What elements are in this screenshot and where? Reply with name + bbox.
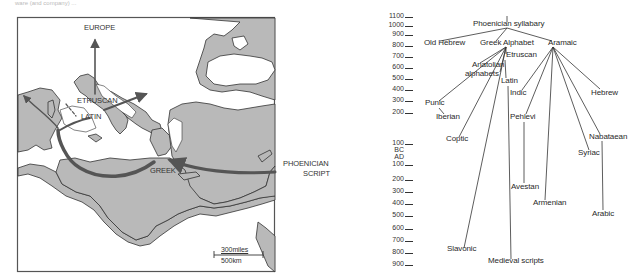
tick-ad-100: 100 [378,160,404,167]
node-latin: Latin [501,77,518,85]
tick-bc-900: 900 [378,30,404,37]
tick-ad-500: 500 [378,211,404,218]
node-greek-alphabet: Greek Alphabet [480,39,534,47]
node-syriac: Syriac [578,149,600,157]
node-armenian: Armenian [533,199,566,207]
node-anatolian-1: Anatolian [472,61,504,69]
tick-ad-700: 700 [378,236,404,243]
node-aramaic: Aramaic [548,39,577,47]
tick-mark [405,57,413,58]
node-coptic: Coptic [446,135,468,143]
tick-mark [405,46,413,47]
tick-ad-900: 900 [378,260,404,267]
node-punic: Punic [425,99,445,107]
tick-mark [405,265,413,266]
node-etruscan: Etruscan [506,51,537,59]
node-arabic: Arabic [592,210,614,218]
map-label-phoenician: PHOENICIAN [283,160,329,168]
node-phoenician-syllabary: Phoenician syllabary [473,20,544,28]
tick-mark [405,17,413,18]
black-sea [206,54,275,86]
tick-bc-600: 600 [378,63,404,70]
tick-mark [405,204,413,205]
node-indic: Indic [510,89,526,97]
tick-mark [405,229,413,230]
tick-mark [405,35,413,36]
tick-ad-600: 600 [378,224,404,231]
tick-mark [405,144,413,145]
mediterranean-map [0,0,631,276]
map-label-latin: LATIN [81,113,101,121]
scale-miles: 300miles [221,246,248,253]
node-medieval-scripts: Medieval scripts [488,257,544,265]
tick-mark [405,79,413,80]
tick-mark [405,113,413,114]
node-nabataean: Nabataean [589,133,627,141]
tick-ad-400: 400 [378,199,404,206]
era-ad: AD [378,153,404,160]
tick-mark [405,241,413,242]
node-pehlevi: Pehlevi [510,113,536,121]
tick-mark [405,68,413,69]
map-label-europe: EUROPE [84,24,115,32]
tick-mark [405,90,413,91]
tick-mark [405,180,413,181]
map-label-etruscan: ETRUSCAN [77,97,117,105]
tick-mark [405,101,413,102]
node-hebrew: Hebrew [591,89,618,97]
tick-bc-100: 100 [378,139,404,146]
node-iberian: Iberian [436,113,460,121]
node-avestan: Avestan [511,183,539,191]
tick-ad-800: 800 [378,248,404,255]
tick-mark [405,165,413,166]
scale-km: 500km [221,257,242,264]
map-label-greek: GREEK [150,167,176,175]
tick-bc-500: 500 [378,74,404,81]
tick-bc-1100: 1100 [378,12,404,19]
tick-bc-1000: 1000 [378,21,404,28]
tick-bc-800: 800 [378,41,404,48]
tick-bc-200: 200 [378,108,404,115]
tick-mark [405,192,413,193]
tick-bc-700: 700 [378,52,404,59]
era-bc: BC [378,146,404,153]
tick-bc-400: 400 [378,85,404,92]
tick-ad-300: 300 [378,187,404,194]
node-anatolian-2: alphabets [465,70,499,78]
map-label-script: SCRIPT [303,170,330,178]
tick-bc-300: 300 [378,96,404,103]
tick-mark [405,253,413,254]
tick-mark [405,26,413,27]
node-slavonic: Slavonic [447,245,476,253]
node-old-hebrew: Old Hebrew [424,39,465,47]
tick-ad-200: 200 [378,175,404,182]
tick-mark [405,216,413,217]
